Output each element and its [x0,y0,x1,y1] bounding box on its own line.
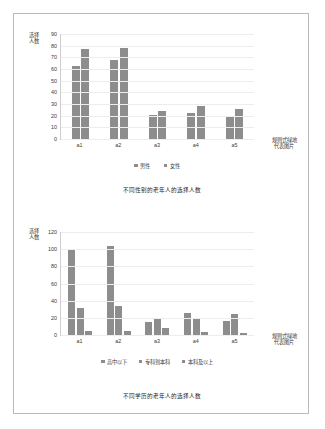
chart-2-x-category-labels: a1a2a3a4a5 [60,338,254,344]
gridline [61,335,254,336]
y-tick-label: 40 [51,89,57,95]
legend-item[interactable]: 高中以下 [101,358,127,365]
bar [81,49,89,139]
bar [162,328,169,335]
chart-2-caption: 不同学历的老年人的选择人数 [14,392,310,400]
legend-item[interactable]: 男性 [134,162,150,169]
gridline [61,318,254,319]
bar [77,308,84,335]
legend-item[interactable]: 女性 [164,162,180,169]
gridline [61,301,254,302]
document-page: 选择人数 0102030405060708090 a1a2a3a4a5 规则式绿… [13,13,309,414]
y-tick-label: 120 [48,229,57,235]
y-tick-label: 80 [51,43,57,49]
chart-1-y-tick-labels: 0102030405060708090 [41,34,57,139]
bar-group [149,34,167,139]
y-tick-label: 0 [54,136,57,142]
bar [68,250,75,335]
chart-1-legend: 男性女性 [60,162,254,169]
chart-2-y-axis-title: 选择人数 [28,229,39,240]
chart-1-x-category-labels: a1a2a3a4a5 [60,142,254,148]
chart-1-caption: 不同性别的老年人的选择人数 [14,186,310,194]
y-tick-label: 50 [51,78,57,84]
legend-swatch-icon [139,360,142,363]
gridline [61,266,254,267]
legend-item[interactable]: 专科到本科 [139,358,170,365]
y-tick-label: 70 [51,54,57,60]
bar [154,318,161,335]
bar-group [226,34,244,139]
y-tick-label: 60 [51,66,57,72]
gridline [61,104,254,105]
x-category-label: a3 [138,338,177,344]
gridline [61,81,254,82]
x-category-label: a1 [60,142,99,148]
figure-education-chart: 选择人数 020406080100120 a1a2a3a4a5 规则式绿地 代表… [14,220,310,410]
bar [187,113,195,139]
legend-swatch-icon [164,164,167,167]
bar [235,109,243,139]
chart-2-plot: 选择人数 020406080100120 a1a2a3a4a5 规则式绿地 代表… [14,220,310,352]
gridline [61,69,254,70]
y-tick-label: 30 [51,101,57,107]
bar [231,314,238,335]
chart-1-plot: 选择人数 0102030405060708090 a1a2a3a4a5 规则式绿… [14,22,310,156]
y-tick-label: 80 [51,263,57,269]
bar [107,246,114,335]
x-category-label: a2 [99,142,138,148]
x-category-label: a3 [138,142,177,148]
bar-group [72,34,90,139]
chart-1-x-axis-note: 规则式绿地 代表图片 [260,137,308,150]
bar [115,306,122,335]
bar [184,313,191,335]
chart-2-legend: 高中以下专科到本科本科及以上 [60,358,254,365]
y-tick-label: 20 [51,315,57,321]
legend-item-label: 男性 [140,162,150,169]
gridline [61,127,254,128]
gridline [61,92,254,93]
legend-swatch-icon [101,360,104,363]
gridline [61,284,254,285]
legend-item-label: 高中以下 [107,358,127,365]
figure-gender-chart: 选择人数 0102030405060708090 a1a2a3a4a5 规则式绿… [14,22,310,216]
gridline [61,139,254,140]
y-tick-label: 0 [54,332,57,338]
x-category-label: a4 [176,338,215,344]
legend-swatch-icon [134,164,137,167]
bar [223,321,230,335]
chart-1-x-axis-note-line-2: 代表图片 [260,143,308,149]
chart-1-y-axis-title: 选择人数 [28,33,39,44]
chart-2-x-axis-note-line-2: 代表图片 [260,339,308,345]
y-tick-label: 90 [51,31,57,37]
y-tick-label: 20 [51,113,57,119]
gridline [61,57,254,58]
y-tick-label: 100 [48,246,57,252]
gridline [61,232,254,233]
x-category-label: a5 [215,338,254,344]
legend-swatch-icon [182,360,185,363]
bar-group [110,34,128,139]
y-tick-label: 10 [51,124,57,130]
legend-item-label: 女性 [170,162,180,169]
bar-group [187,34,205,139]
gridline [61,34,254,35]
x-category-label: a2 [99,338,138,344]
x-category-label: a5 [215,142,254,148]
chart-1-bar-groups [61,34,254,139]
bar [120,48,128,139]
bar [197,106,205,139]
chart-2-y-tick-labels: 020406080100120 [41,232,57,335]
gridline [61,116,254,117]
x-category-label: a1 [60,338,99,344]
chart-2-x-axis-note: 规则式绿地 代表图片 [260,333,308,346]
x-category-label: a4 [176,142,215,148]
bar [193,319,200,335]
gridline [61,46,254,47]
legend-item-label: 本科及以上 [188,358,213,365]
legend-item[interactable]: 本科及以上 [182,358,213,365]
y-tick-label: 40 [51,298,57,304]
chart-2-plot-area [60,232,254,336]
bar [145,322,152,335]
chart-1-plot-area [60,34,254,140]
legend-item-label: 专科到本科 [145,358,170,365]
